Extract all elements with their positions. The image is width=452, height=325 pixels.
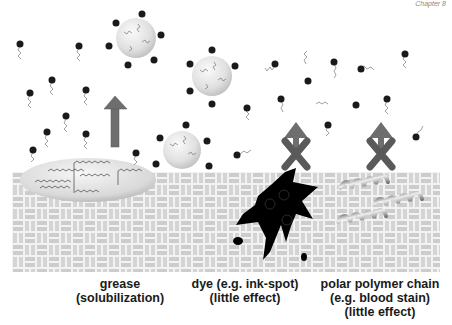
- micelle: [153, 122, 213, 170]
- up-arrow-icon: [104, 96, 127, 147]
- grease-label: grease (solubilization): [55, 277, 185, 305]
- micelle: [187, 47, 239, 108]
- blocked-arrow-icon: [369, 122, 393, 167]
- grease-droplet: [20, 158, 156, 202]
- blocked-arrow-icon: [284, 122, 308, 167]
- micelle: [106, 11, 165, 69]
- dye-label: dye (e.g. ink-spot) (little effect): [175, 277, 315, 305]
- polymer-label: polar polymer chain (e.g. blood stain) (…: [310, 277, 450, 319]
